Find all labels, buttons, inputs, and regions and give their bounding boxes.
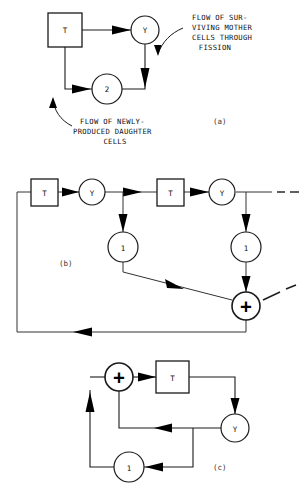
panel-a-caption: (a) [213, 117, 227, 126]
node-summing-junction-label: + [113, 366, 124, 388]
node-summing-junction-label: + [240, 295, 251, 317]
note-line: FISSION [199, 43, 231, 52]
node-transit-box-2-label: T [168, 189, 173, 198]
dash-sum-diagonal-1 [263, 292, 280, 300]
arrowhead-yield-to-sum [154, 424, 172, 433]
arrowhead-transit-to-yield [112, 26, 131, 35]
leader-daughter-cells [53, 99, 72, 126]
arrowhead-sum-to-transit [138, 373, 156, 382]
node-unity-circle-label: 1 [127, 464, 132, 473]
leader-surviving-mother-cells [158, 28, 183, 54]
arrowhead-leader-daughter [49, 97, 57, 108]
node-yield-circle-1-label: Y [90, 189, 95, 198]
arrowhead-leader-surviving [154, 45, 162, 56]
arrowhead-unity1-to-sum [165, 279, 184, 289]
note-surviving-mother-cells: FLOW OF SUR- VIVING MOTHER CELLS THROUGH… [192, 13, 253, 52]
arrowhead-yield-down [141, 68, 150, 88]
note-line: CELLS [103, 137, 126, 146]
node-gain-two-circle-label: 2 [105, 85, 110, 94]
wire-unity-to-sum-rail [90, 390, 114, 467]
arrowhead-transit-to-yield [231, 398, 240, 414]
wire-yield-to-sum [119, 391, 222, 428]
node-transit-box-1-label: T [42, 189, 47, 198]
panel-a: T Y 2 FLOW OF SUR- VIVING MOTHER CELLS T… [48, 13, 253, 146]
panel-c: + T Y 1 (c) [86, 361, 250, 482]
arrowhead-yield-to-unity [145, 463, 163, 472]
arrowhead-branch-unity2 [242, 214, 251, 232]
wire-yield-to-two [122, 44, 145, 89]
wire-yield-to-unity [144, 428, 193, 467]
wire-transit-to-two [65, 47, 92, 89]
note-line: PRODUCED DAUGHTER [73, 127, 152, 136]
node-yield-circle-label: Y [143, 26, 148, 35]
wire-feedback-rail [17, 192, 246, 332]
arrowhead-transit2-to-yield2 [190, 188, 209, 197]
note-line: FLOW OF SUR- [192, 13, 248, 22]
node-yield-circle-2-label: Y [220, 189, 225, 198]
arrowhead-unity2-to-sum [242, 276, 251, 292]
node-yield-circle-label: Y [233, 425, 238, 434]
note-line: CELLS THROUGH [192, 33, 252, 42]
panel-b-caption: (b) [59, 259, 73, 268]
note-line: FLOW OF NEWLY- [80, 117, 145, 126]
node-transit-box-label: T [170, 374, 175, 383]
panel-b: T Y T Y 1 1 + (b) [17, 179, 299, 337]
arrowhead-feedback-left [73, 328, 92, 337]
wire-transit-to-yield [189, 377, 235, 414]
node-unity-circle-2-label: 1 [244, 244, 249, 253]
node-unity-circle-1-label: 1 [121, 244, 126, 253]
wire-unity1-to-sum [123, 262, 232, 300]
note-newly-produced-daughter-cells: FLOW OF NEWLY- PRODUCED DAUGHTER CELLS [73, 117, 152, 146]
arrowhead-transit1-to-yield1 [62, 188, 79, 197]
arrowhead-yield1-to-transit2 [123, 188, 142, 197]
note-line: VIVING MOTHER [192, 23, 253, 32]
panel-c-caption: (c) [213, 463, 227, 472]
arrowhead-unity-rail-up [86, 392, 95, 412]
arrowhead-into-two [72, 85, 91, 94]
arrowhead-branch-unity1 [119, 214, 128, 232]
node-transit-box-label: T [63, 26, 68, 35]
dash-sum-diagonal-2 [286, 285, 296, 289]
signal-flow-figure: T Y 2 FLOW OF SUR- VIVING MOTHER CELLS T… [0, 0, 306, 490]
